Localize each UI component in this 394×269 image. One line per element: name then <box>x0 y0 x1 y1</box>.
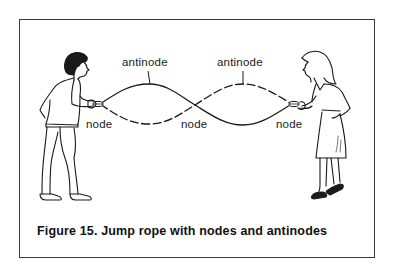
rope-handle-left <box>93 101 103 106</box>
woman-figure <box>298 51 350 199</box>
boy-hair <box>65 53 88 75</box>
antinode-label-right: antinode <box>217 57 263 69</box>
rope-handle-right <box>289 101 299 106</box>
node-label-right: node <box>276 119 302 131</box>
antinode-label-left: antinode <box>122 57 168 69</box>
antinode-left-leader <box>148 71 150 84</box>
node-label-middle: node <box>181 119 207 131</box>
node-label-left: node <box>86 119 112 131</box>
figure-caption: Figure 15. Jump rope with nodes and anti… <box>37 224 327 238</box>
